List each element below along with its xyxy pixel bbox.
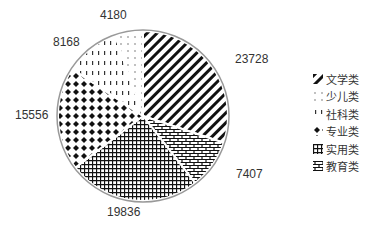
legend-item-sheke: 社科类: [313, 105, 359, 123]
label-sheke: 8168: [53, 35, 80, 49]
label-shaoer: 4180: [100, 8, 127, 22]
legend-item-shiyong: 实用类: [313, 140, 359, 158]
label-shiyong: 19836: [107, 205, 140, 219]
dots-swatch-icon: [313, 91, 323, 101]
diagonal-stripes-swatch-icon: [313, 74, 323, 84]
legend-item-zhuanye: 专业类: [313, 123, 359, 141]
diamonds-swatch-icon: [313, 126, 323, 136]
label-wenxue: 23728: [235, 52, 268, 66]
legend-item-wenxue: 文学类: [313, 70, 359, 88]
legend-item-jiaoyu: 教育类: [313, 158, 359, 176]
legend-item-shaoer: 少儿类: [313, 88, 359, 106]
label-jiaoyu: 7407: [236, 167, 263, 181]
brick-swatch-icon: [313, 161, 323, 171]
grid-swatch-icon: [313, 144, 323, 154]
label-zhuanye: 15556: [15, 108, 48, 122]
vertical-dashes-swatch-icon: [313, 109, 323, 119]
legend: 文学类 少儿类 社科类 专业类 实用类 教育类: [313, 70, 359, 175]
